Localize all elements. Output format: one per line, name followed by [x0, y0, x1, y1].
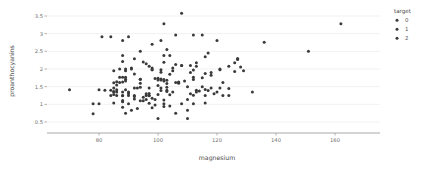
- data-point: [112, 87, 115, 90]
- legend-item-label[interactable]: 0: [405, 17, 409, 23]
- y-tick-label: 2.5: [35, 48, 43, 54]
- data-point: [195, 65, 198, 68]
- data-point: [204, 72, 207, 75]
- data-point: [165, 79, 168, 82]
- data-point: [148, 65, 151, 68]
- data-point: [180, 64, 183, 67]
- data-point: [168, 93, 171, 96]
- data-point: [121, 100, 124, 103]
- data-point: [183, 80, 186, 83]
- data-point: [121, 81, 124, 84]
- data-point: [148, 102, 151, 105]
- data-point: [174, 112, 177, 115]
- data-point: [115, 94, 118, 97]
- data-point: [109, 89, 112, 92]
- data-point: [142, 96, 145, 99]
- data-point: [130, 66, 133, 69]
- data-point: [239, 65, 242, 68]
- data-point: [127, 102, 130, 105]
- data-point: [154, 98, 157, 101]
- x-tick-label: 120: [212, 137, 222, 143]
- legend-group: target 012: [394, 8, 412, 41]
- data-point: [186, 117, 189, 120]
- y-tick-label: 1: [40, 101, 43, 107]
- data-point: [92, 112, 95, 115]
- data-point: [142, 99, 145, 102]
- data-point: [127, 35, 130, 38]
- data-point: [112, 90, 115, 93]
- y-tick-label: 3.5: [35, 13, 43, 19]
- data-point: [130, 109, 133, 112]
- data-point: [109, 35, 112, 38]
- data-point: [151, 97, 154, 100]
- data-point: [180, 12, 183, 15]
- data-point: [159, 39, 162, 42]
- data-point: [118, 68, 121, 71]
- data-point: [171, 90, 174, 93]
- data-point: [210, 87, 213, 90]
- data-point: [154, 77, 157, 80]
- data-point: [139, 50, 142, 53]
- data-point: [339, 22, 342, 25]
- data-point: [142, 60, 145, 63]
- data-point: [165, 48, 168, 51]
- data-point: [151, 43, 154, 46]
- data-point: [192, 78, 195, 81]
- data-point: [124, 78, 127, 81]
- data-point: [210, 74, 213, 77]
- data-point: [159, 68, 162, 71]
- data-point: [192, 69, 195, 72]
- data-point: [162, 105, 165, 108]
- data-point: [165, 86, 168, 89]
- data-point: [192, 102, 195, 105]
- data-point: [154, 104, 157, 107]
- data-point: [216, 39, 219, 42]
- data-point: [218, 68, 221, 71]
- data-point: [151, 106, 154, 109]
- y-axis-ticks-group: 0.511.522.533.5: [35, 13, 47, 125]
- data-point: [218, 87, 221, 90]
- data-point: [221, 94, 224, 97]
- data-point: [192, 34, 195, 37]
- data-point: [121, 54, 124, 57]
- data-point: [133, 87, 136, 90]
- x-axis-group: 80100120140160: [47, 133, 380, 143]
- scatter-plot-figure: 0.511.522.533.5 80100120140160 proanthoc…: [0, 0, 436, 171]
- data-point: [233, 70, 236, 73]
- data-point: [195, 61, 198, 64]
- data-point: [174, 81, 177, 84]
- legend-marker: [396, 19, 399, 22]
- data-point: [162, 54, 165, 57]
- data-point: [115, 90, 118, 93]
- data-point: [98, 102, 101, 105]
- y-tick-label: 0.5: [35, 119, 43, 125]
- gridlines-group: [47, 16, 380, 122]
- data-point: [210, 71, 213, 74]
- data-point: [195, 90, 198, 93]
- y-tick-label: 1.5: [35, 84, 43, 90]
- legend-item-label[interactable]: 1: [405, 26, 408, 32]
- data-point: [180, 102, 183, 105]
- x-tick-label: 140: [271, 137, 281, 143]
- data-point: [121, 39, 124, 42]
- data-point: [139, 78, 142, 81]
- data-point: [207, 52, 210, 55]
- legend-item-label[interactable]: 2: [405, 35, 408, 41]
- data-point: [136, 87, 139, 90]
- data-point: [139, 99, 142, 102]
- data-point: [201, 34, 204, 37]
- legend-title: target: [394, 8, 412, 15]
- data-point: [186, 85, 189, 88]
- data-point: [168, 73, 171, 76]
- legend-marker: [396, 28, 399, 31]
- data-point: [227, 65, 230, 68]
- data-point: [189, 64, 192, 67]
- data-point: [157, 84, 160, 87]
- data-point: [121, 60, 124, 63]
- data-point: [186, 109, 189, 112]
- data-point: [115, 83, 118, 86]
- data-point: [236, 58, 239, 61]
- data-point: [186, 98, 189, 101]
- data-point: [162, 102, 165, 105]
- data-point: [157, 77, 160, 80]
